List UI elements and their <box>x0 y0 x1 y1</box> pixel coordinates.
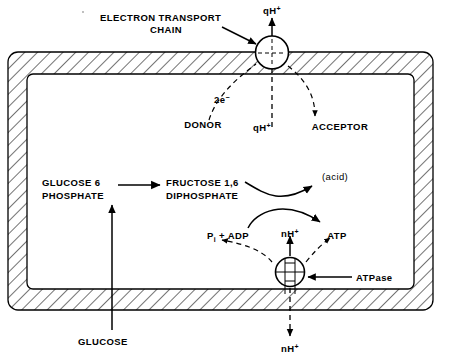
label-fdp-line2: DIPHOSPHATE <box>166 190 238 201</box>
etc-pointer-arrow <box>222 27 256 44</box>
label-nh-out-bottom: nH+ <box>281 343 299 355</box>
arrow-pi-adp-to-atp <box>248 209 320 228</box>
label-atp: ATP <box>327 230 347 241</box>
label-qh-out-top: qH+ <box>263 5 281 17</box>
scan-speck <box>82 11 84 13</box>
electron-transport-chain-complex <box>256 36 289 69</box>
label-donor: DONOR <box>184 119 221 130</box>
etc-label-line2: CHAIN <box>150 24 182 35</box>
label-qh-in-top: qH+ <box>253 122 271 134</box>
etc-label-line1: ELECTRON TRANSPORT <box>100 12 221 23</box>
arrow-atp-to-pi-adp <box>222 240 272 262</box>
chemiosmosis-diagram: qH+ qH+ ELECTRON TRANSPORT CHAIN 2e− DON… <box>0 0 451 362</box>
label-atpase: ATPase <box>356 272 393 283</box>
label-pi-adp: Pi + ADP <box>207 230 249 243</box>
label-glucose: GLUCOSE <box>78 336 128 347</box>
label-g6p-line1: GLUCOSE 6 <box>42 177 101 188</box>
arrow-fdp-to-acid <box>245 182 312 196</box>
label-acid: (acid) <box>322 171 348 182</box>
label-g6p-line2: PHOSPHATE <box>42 190 104 201</box>
label-fdp-line1: FRUCTOSE 1,6 <box>166 177 239 188</box>
label-two-electrons: 2e− <box>214 94 230 106</box>
arrow-atpase-to-atp <box>306 238 330 262</box>
label-nh-in-bottom: nH+ <box>281 228 299 240</box>
label-acceptor: ACCEPTOR <box>312 121 368 132</box>
